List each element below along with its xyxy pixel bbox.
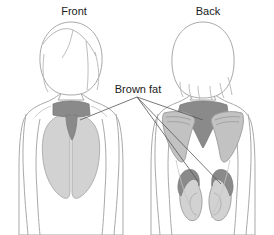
back-view-label: Back xyxy=(196,5,221,17)
anatomy-illustration: Front Back Brown fat xyxy=(0,0,274,235)
front-view-label: Front xyxy=(61,5,87,17)
brown-fat-anatomy-figure: Front Back Brown fat xyxy=(0,0,274,235)
back-head xyxy=(172,22,234,98)
front-head xyxy=(40,22,102,95)
brown-fat-label: Brown fat xyxy=(115,83,161,95)
